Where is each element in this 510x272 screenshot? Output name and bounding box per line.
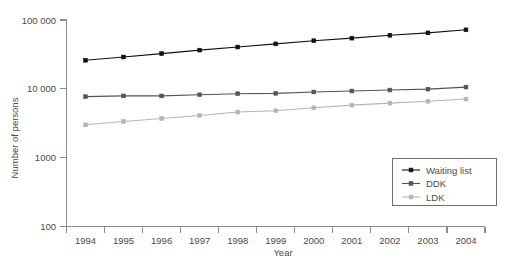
line-chart: 100100010 000100 000 1994199519961997199… [0,0,510,272]
data-point [122,94,126,98]
legend-label-0: Waiting list [426,165,472,176]
series-layer [84,28,468,127]
x-tick-label: 1996 [151,235,172,246]
chart-container: 100100010 000100 000 1994199519961997199… [0,0,510,272]
data-point [84,123,88,127]
x-tick-label: 2000 [303,235,324,246]
series-ddk [84,85,468,98]
data-point [274,42,278,46]
x-tick-label: 1995 [113,235,134,246]
data-point [236,92,240,96]
data-point [464,97,468,101]
y-axis-title: Number of persons [9,97,20,178]
x-tick-label: 2002 [379,235,400,246]
data-point [236,45,240,49]
data-point [122,120,126,124]
x-tick-label: 2004 [455,235,476,246]
x-tick-label: 2001 [341,235,362,246]
data-point [160,52,164,56]
series-waiting-list [84,28,468,62]
data-point [312,39,316,43]
data-point [198,48,202,52]
data-point [160,117,164,121]
legend-marker-1 [409,182,413,186]
x-tick-label: 1994 [75,235,96,246]
y-axis-tick-labels: 100100010 000100 000 [22,15,56,233]
y-axis-ticks [60,20,67,227]
data-point [160,94,164,98]
data-point [350,89,354,93]
y-tick-label: 10 000 [27,83,56,94]
x-axis-tick-labels: 1994199519961997199819992000200120022003… [75,235,477,246]
legend-label-2: LDK [426,192,445,203]
chart-legend: Waiting listDDKLDK [393,159,497,206]
data-point [84,58,88,62]
data-point [388,101,392,105]
data-point [84,95,88,99]
data-point [426,99,430,103]
data-point [464,85,468,89]
x-tick-label: 2003 [417,235,438,246]
data-point [350,103,354,107]
data-point [388,33,392,37]
data-point [464,28,468,32]
data-point [312,106,316,110]
data-point [426,31,430,35]
data-point [388,88,392,92]
x-tick-label: 1998 [227,235,248,246]
data-point [198,93,202,97]
data-point [236,110,240,114]
data-point [426,87,430,91]
x-tick-label: 1999 [265,235,286,246]
data-point [274,109,278,113]
x-axis-title: Year [273,247,292,258]
legend-label-1: DDK [426,178,447,189]
legend-marker-0 [409,168,413,172]
data-point [122,55,126,59]
y-tick-label: 100 000 [22,15,56,26]
x-axis-ticks [67,227,486,234]
legend-marker-2 [409,195,413,199]
y-tick-label: 100 [40,221,56,232]
series-ldk [84,97,468,127]
x-tick-label: 1997 [189,235,210,246]
data-point [198,114,202,118]
data-point [274,91,278,95]
y-tick-label: 1000 [35,152,56,163]
data-point [312,90,316,94]
data-point [350,36,354,40]
